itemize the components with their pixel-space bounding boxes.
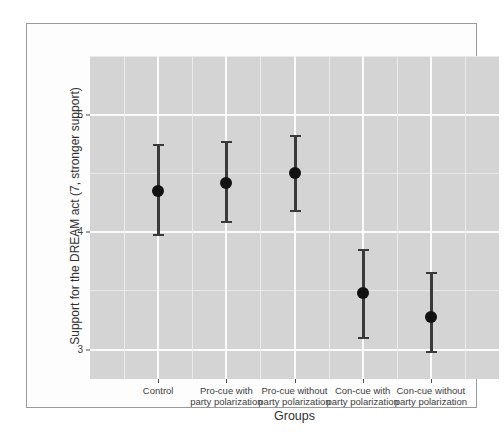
x-tick-label: Con-cue withoutparty polarization <box>376 385 486 407</box>
x-tick-label-line2: party polarization <box>376 396 486 407</box>
errorbar-cap-upper <box>426 272 437 274</box>
figure-frame: 345 Support for the DREAM act (7, strong… <box>26 23 477 408</box>
gridline-vertical-minor <box>397 56 398 379</box>
y-tick-mark <box>86 349 90 350</box>
plot-panel <box>90 56 499 379</box>
errorbar-cap-upper <box>290 135 301 137</box>
gridline-vertical-minor <box>465 56 466 379</box>
x-tick-mark <box>158 379 159 383</box>
gridline-vertical-minor <box>260 56 261 379</box>
errorbar-cap-upper <box>358 249 369 251</box>
errorbar-cap-upper <box>221 141 232 143</box>
errorbar-cap-upper <box>153 144 164 146</box>
x-axis-title: Groups <box>90 409 499 423</box>
y-axis-title: Support for the DREAM act (7, stronger s… <box>68 76 82 356</box>
y-tick-mark <box>86 114 90 115</box>
x-tick-label-line1: Con-cue without <box>376 385 486 396</box>
x-tick-mark <box>226 379 227 383</box>
x-tick-mark <box>431 379 432 383</box>
errorbar-cap-lower <box>290 210 301 212</box>
gridline-vertical-major <box>294 56 296 379</box>
data-point <box>425 311 437 323</box>
errorbar-cap-lower <box>426 351 437 353</box>
gridline-vertical-minor <box>329 56 330 379</box>
x-tick-mark <box>363 379 364 383</box>
errorbar-cap-lower <box>221 221 232 223</box>
data-point <box>220 177 232 189</box>
figure-container: 345 Support for the DREAM act (7, strong… <box>0 0 504 432</box>
x-tick-mark <box>295 379 296 383</box>
data-point <box>289 167 301 179</box>
data-point <box>357 287 369 299</box>
errorbar-cap-lower <box>358 337 369 339</box>
data-point <box>152 185 164 197</box>
errorbar-cap-lower <box>153 234 164 236</box>
y-tick-mark <box>86 232 90 233</box>
gridline-vertical-minor <box>192 56 193 379</box>
gridline-vertical-minor <box>124 56 125 379</box>
